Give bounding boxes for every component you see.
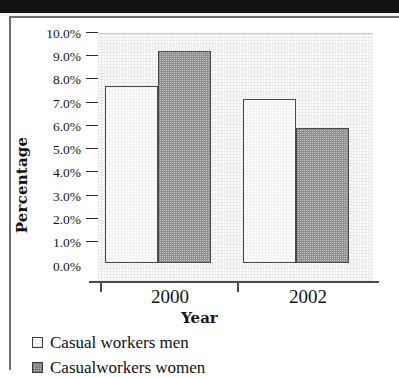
y-tick-1: 1.0% bbox=[53, 236, 98, 250]
y-tick-7: 7.0% bbox=[53, 97, 98, 111]
y-tick-dash bbox=[86, 148, 98, 149]
legend-label-women: Casualworkers women bbox=[50, 358, 205, 377]
y-tick-dash bbox=[86, 78, 98, 79]
y-tick-label: 10.0% bbox=[46, 27, 81, 41]
y-tick-dash bbox=[86, 102, 98, 103]
y-tick-10: 10.0% bbox=[46, 27, 98, 41]
y-tick-dash bbox=[86, 55, 98, 56]
scan-artifact-band bbox=[0, 0, 399, 13]
y-tick-label: 1.0% bbox=[53, 236, 81, 250]
y-tick-5: 5.0% bbox=[53, 143, 98, 157]
x-axis-tick-origin bbox=[100, 281, 102, 292]
x-tick-label-2000: 2000 bbox=[130, 286, 210, 308]
y-tick-label: 6.0% bbox=[53, 120, 81, 134]
x-axis-title: Year bbox=[0, 309, 399, 327]
y-tick-label: 0.0% bbox=[53, 260, 81, 274]
y-tick-dash bbox=[86, 125, 98, 126]
y-tick-6: 6.0% bbox=[53, 120, 98, 134]
y-tick-9: 9.0% bbox=[53, 50, 98, 64]
bar-2002-casual-workers-women[interactable] bbox=[296, 128, 349, 263]
y-tick-label: 4.0% bbox=[53, 166, 81, 180]
y-tick-dash bbox=[86, 265, 98, 266]
bar-2000-casual-workers-men[interactable] bbox=[105, 86, 158, 263]
legend-label-men: Casual workers men bbox=[50, 333, 189, 353]
y-tick-8: 8.0% bbox=[53, 73, 98, 87]
legend-item-women[interactable]: Casualworkers women bbox=[32, 355, 205, 377]
x-axis-tick-mid bbox=[237, 281, 239, 292]
bar-chart: Percentage 10.0% 9.0% 8.0% 7.0% 6.0% 5.0… bbox=[0, 18, 399, 370]
y-tick-4: 4.0% bbox=[53, 166, 98, 180]
bar-2002-casual-workers-men[interactable] bbox=[243, 99, 296, 263]
y-tick-0: 0.0% bbox=[53, 260, 98, 274]
y-tick-dash bbox=[86, 171, 98, 172]
y-tick-dash bbox=[86, 195, 98, 196]
y-tick-label: 5.0% bbox=[53, 143, 81, 157]
y-tick-2: 2.0% bbox=[53, 213, 98, 227]
y-tick-dash bbox=[86, 218, 98, 219]
y-tick-3: 3.0% bbox=[53, 190, 98, 204]
y-tick-dash bbox=[86, 241, 98, 242]
chart-legend: Casual workers men Casualworkers women bbox=[32, 330, 205, 377]
y-tick-dash bbox=[86, 32, 98, 33]
y-axis-ticks: 10.0% 9.0% 8.0% 7.0% 6.0% 5.0% 4.0% 3.0%… bbox=[26, 33, 98, 281]
x-axis-line bbox=[89, 281, 379, 283]
bar-2000-casual-workers-women[interactable] bbox=[158, 51, 211, 263]
y-tick-label: 8.0% bbox=[53, 73, 81, 87]
y-tick-label: 9.0% bbox=[53, 50, 81, 64]
x-tick-label-2002: 2002 bbox=[268, 286, 348, 308]
legend-swatch-women-icon bbox=[32, 362, 43, 373]
y-tick-label: 2.0% bbox=[53, 213, 81, 227]
legend-swatch-men-icon bbox=[32, 337, 43, 348]
y-tick-label: 7.0% bbox=[53, 97, 81, 111]
legend-item-men[interactable]: Casual workers men bbox=[32, 330, 205, 355]
plot-top-gridline bbox=[98, 33, 373, 34]
y-tick-label: 3.0% bbox=[53, 190, 81, 204]
